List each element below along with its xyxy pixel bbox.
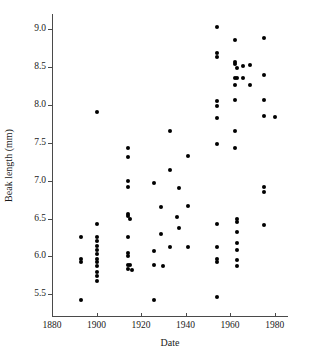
data-point [95, 279, 99, 283]
x-axis-title: Date [52, 338, 288, 348]
data-point [235, 76, 239, 80]
data-point [161, 264, 165, 268]
data-point [235, 66, 239, 70]
x-tick [97, 313, 98, 317]
data-point [152, 181, 156, 185]
data-point [262, 73, 266, 77]
data-point [126, 267, 130, 271]
data-point [95, 264, 99, 268]
data-point [235, 220, 239, 224]
data-point [126, 235, 130, 239]
y-tick-label: 7.5 [34, 138, 46, 148]
y-tick [48, 294, 52, 295]
data-point [79, 235, 83, 239]
data-point [168, 129, 172, 133]
x-tick [230, 313, 231, 317]
data-point [152, 249, 156, 253]
x-tick-label: 1980 [265, 321, 284, 331]
data-point [128, 263, 132, 267]
data-point [262, 185, 266, 189]
data-point [215, 25, 219, 29]
data-point [233, 98, 237, 102]
y-tick-label: 8.5 [34, 62, 46, 72]
data-point [79, 260, 83, 264]
x-tick [275, 313, 276, 317]
y-axis-title: Beak length (mm) [2, 14, 16, 317]
y-tick-label: 9.0 [34, 24, 46, 34]
data-point [95, 239, 99, 243]
data-point [168, 168, 172, 172]
data-point [233, 129, 237, 133]
y-tick [48, 67, 52, 68]
data-point [235, 258, 239, 262]
data-point [233, 38, 237, 42]
y-tick [48, 105, 52, 106]
data-point [215, 295, 219, 299]
data-point [273, 115, 277, 119]
data-point [168, 245, 172, 249]
data-point [262, 190, 266, 194]
x-tick-label: 1900 [87, 321, 106, 331]
x-tick [141, 313, 142, 317]
data-point [130, 268, 134, 272]
y-tick [48, 219, 52, 220]
data-point [215, 245, 219, 249]
data-point [233, 146, 237, 150]
data-point [262, 98, 266, 102]
data-point [95, 244, 99, 248]
data-point [126, 179, 130, 183]
data-point [215, 104, 219, 108]
data-point [95, 270, 99, 274]
data-point [235, 241, 239, 245]
scatter-plot-figure: 5.56.06.57.07.58.08.59.0 188019001920194… [0, 0, 312, 359]
data-point [215, 222, 219, 226]
x-tick [52, 313, 53, 317]
data-point [235, 248, 239, 252]
data-point [126, 254, 130, 258]
data-point [215, 142, 219, 146]
data-point [215, 116, 219, 120]
y-tick-label: 8.0 [34, 100, 46, 110]
data-point [248, 83, 252, 87]
y-tick [48, 29, 52, 30]
x-tick [186, 313, 187, 317]
data-point [235, 264, 239, 268]
data-point [159, 232, 163, 236]
data-point [95, 260, 99, 264]
y-tick [48, 256, 52, 257]
data-point [248, 63, 252, 67]
data-point [177, 186, 181, 190]
data-point [262, 36, 266, 40]
data-point [175, 215, 179, 219]
data-point [186, 204, 190, 208]
data-point [241, 64, 245, 68]
data-point [215, 55, 219, 59]
data-point [95, 252, 99, 256]
data-point [177, 226, 181, 230]
data-point [241, 76, 245, 80]
data-point [186, 245, 190, 249]
data-point [95, 235, 99, 239]
data-point [126, 146, 130, 150]
x-axis-line [52, 316, 288, 317]
y-tick [48, 181, 52, 182]
y-tick-label: 5.5 [34, 290, 46, 300]
data-point [126, 185, 130, 189]
y-tick-label: 7.0 [34, 176, 46, 186]
y-tick-label: 6.5 [34, 214, 46, 224]
y-tick-label: 6.0 [34, 252, 46, 262]
data-point [95, 222, 99, 226]
data-point [186, 154, 190, 158]
data-point [262, 114, 266, 118]
data-point [215, 99, 219, 103]
data-point [79, 298, 83, 302]
data-point [95, 274, 99, 278]
data-point [126, 155, 130, 159]
x-tick-label: 1880 [43, 321, 62, 331]
data-point [215, 260, 219, 264]
data-point [152, 298, 156, 302]
data-point [235, 230, 239, 234]
data-point [233, 83, 237, 87]
plot-area: 5.56.06.57.07.58.08.59.0 188019001920194… [52, 14, 288, 317]
x-tick-label: 1960 [221, 321, 240, 331]
